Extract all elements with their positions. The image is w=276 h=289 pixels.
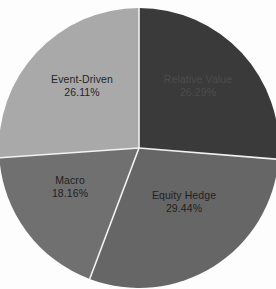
pie-chart-canvas [0, 0, 276, 289]
pie-slice-event-driven[interactable] [0, 8, 139, 158]
pie-chart: Event-Driven 26.11% Relative Value 26.29… [0, 0, 276, 289]
pie-slice-relative-value[interactable] [139, 8, 276, 159]
